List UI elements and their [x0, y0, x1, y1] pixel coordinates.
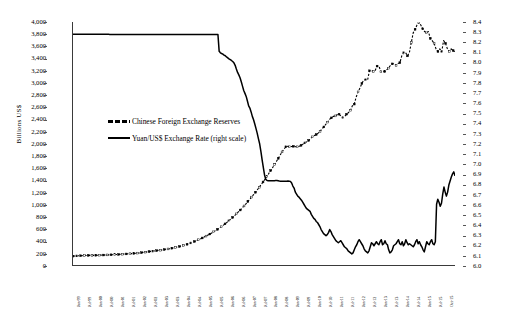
y-tick-left: 200 [12, 251, 46, 258]
y-tick-right: 7.4 [473, 120, 503, 127]
y-tick-left: 2,000 [12, 141, 46, 148]
y-tickmark-left [44, 266, 47, 267]
y-tick-right: 6.6 [473, 202, 503, 209]
y-tick-right: 7.5 [473, 110, 503, 117]
y-tick-right: 8.3 [473, 29, 503, 36]
y-tickmark-right [463, 266, 466, 267]
y-tickmark-right [463, 246, 466, 247]
y-tick-right: 6.5 [473, 212, 503, 219]
x-tick-label: Jan-07 [253, 296, 257, 307]
y-tick-right: 6.2 [473, 242, 503, 249]
y-tick-left: 3,200 [12, 68, 46, 75]
y-tickmark-left [44, 120, 47, 121]
y-tick-left: 3,600 [12, 43, 46, 50]
chart-container: Billions US$ 02004006008001,0001,2001,40… [0, 0, 510, 310]
y-tickmark-right [463, 63, 466, 64]
y-tickmark-left [44, 168, 47, 169]
x-tick-label: Jul-14 [417, 297, 421, 307]
x-tick-label: Jul-03 [176, 297, 180, 307]
y-tick-right: 7.2 [473, 141, 503, 148]
x-tick-label: Jul-02 [154, 297, 158, 307]
legend-label-reserves: Chinese Foreign Exchange Reserves [132, 117, 240, 126]
y-tick-left: 0 [12, 263, 46, 270]
y-tickmark-left [44, 71, 47, 72]
y-tickmark-right [463, 175, 466, 176]
y-tickmark-left [44, 217, 47, 218]
x-tick-label: Jul-12 [373, 297, 377, 307]
x-tick-label: Jul-99 [88, 297, 92, 307]
y-tickmark-left [44, 229, 47, 230]
y-tick-left: 4,000 [12, 19, 46, 26]
y-tickmark-right [463, 225, 466, 226]
y-tickmark-right [463, 114, 466, 115]
y-tickmark-right [463, 22, 466, 23]
x-tick-label: Jul-07 [264, 297, 268, 307]
x-tick-label: Jan-04 [187, 296, 191, 307]
y-tickmark-left [44, 22, 47, 23]
y-tick-left: 1,800 [12, 153, 46, 160]
y-tickmark-right [463, 32, 466, 33]
y-tickmark-left [44, 95, 47, 96]
y-tickmark-left [44, 254, 47, 255]
y-tick-right: 6.0 [473, 263, 503, 270]
y-tick-left: 800 [12, 214, 46, 221]
y-tickmark-right [463, 83, 466, 84]
x-tick-label: Jan-01 [121, 296, 125, 307]
y-tickmark-right [463, 42, 466, 43]
x-tick-label: Jan-12 [362, 296, 366, 307]
y-tickmark-right [463, 205, 466, 206]
chart-legend: Chinese Foreign Exchange Reserves Yuan/U… [108, 113, 328, 147]
y-tick-right: 6.4 [473, 222, 503, 229]
x-tick-label: Jan-10 [318, 296, 322, 307]
y-tick-left: 2,400 [12, 116, 46, 123]
x-tick-label: Jan-05 [209, 296, 213, 307]
y-tickmark-right [463, 154, 466, 155]
y-tickmark-left [44, 242, 47, 243]
y-tick-left: 600 [12, 226, 46, 233]
x-tick-label: Jan-08 [274, 296, 278, 307]
y-tick-left: 2,200 [12, 129, 46, 136]
y-tick-right: 6.7 [473, 192, 503, 199]
x-tick-label: Jul-00 [110, 297, 114, 307]
y-tick-right: 6.9 [473, 171, 503, 178]
y-tickmark-right [463, 256, 466, 257]
y-tick-right: 8.4 [473, 19, 503, 26]
y-tick-right: 8.2 [473, 39, 503, 46]
x-tick-label: Jan-14 [406, 296, 410, 307]
y-tickmark-right [463, 124, 466, 125]
y-tick-right: 6.8 [473, 181, 503, 188]
legend-key-dashed [108, 116, 130, 127]
y-tick-right: 7.6 [473, 100, 503, 107]
y-tickmark-left [44, 205, 47, 206]
y-tick-left: 3,800 [12, 31, 46, 38]
y-tickmark-left [44, 181, 47, 182]
x-tick-label: Jul-01 [132, 297, 136, 307]
x-tick-label: Jul-15 [439, 297, 443, 307]
y-tick-left: 2,600 [12, 104, 46, 111]
y-axis-left-ticks: 02004006008001,0001,2001,4001,6001,8002,… [4, 0, 46, 310]
y-tickmark-right [463, 164, 466, 165]
y-tick-right: 6.1 [473, 253, 503, 260]
x-tick-label: Jan-99 [77, 296, 81, 307]
y-tickmark-left [44, 59, 47, 60]
y-tickmark-left [44, 107, 47, 108]
x-tick-label: Jul-13 [395, 297, 399, 307]
y-tick-right: 7.7 [473, 90, 503, 97]
legend-item-exchange-rate: Yuan/US$ Exchange Rate (right scale) [108, 130, 328, 147]
x-tick-label: Oct-15 [450, 296, 454, 307]
y-tick-right: 6.3 [473, 232, 503, 239]
y-tick-right: 7.3 [473, 131, 503, 138]
x-tick-label: Jan-00 [99, 296, 103, 307]
y-axis-right-ticks: 6.06.16.26.36.46.56.66.76.86.97.07.17.27… [461, 0, 507, 310]
x-tick-label: Jul-09 [307, 297, 311, 307]
y-tick-left: 1,000 [12, 202, 46, 209]
y-tickmark-right [463, 134, 466, 135]
x-tick-label: Jul-05 [220, 297, 224, 307]
y-tickmark-left [44, 193, 47, 194]
y-tickmark-right [463, 93, 466, 94]
x-tick-label: Jul-11 [351, 297, 355, 307]
y-tick-left: 1,600 [12, 165, 46, 172]
y-tick-left: 3,400 [12, 55, 46, 62]
y-tickmark-left [44, 156, 47, 157]
y-tickmark-left [44, 83, 47, 84]
